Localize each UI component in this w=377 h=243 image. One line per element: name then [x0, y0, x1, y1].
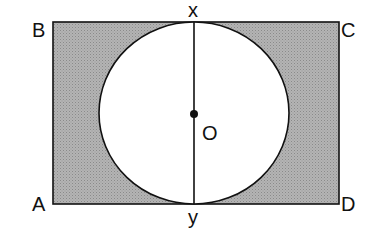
- label-x: x: [188, 0, 198, 21]
- label-o: O: [202, 122, 218, 144]
- center-point-o: [190, 110, 198, 118]
- label-d: D: [341, 193, 355, 215]
- label-a: A: [32, 193, 46, 215]
- label-b: B: [32, 19, 45, 41]
- label-y: y: [188, 206, 198, 228]
- label-c: C: [341, 19, 355, 41]
- geometry-diagram: B C A D x y O: [0, 0, 377, 243]
